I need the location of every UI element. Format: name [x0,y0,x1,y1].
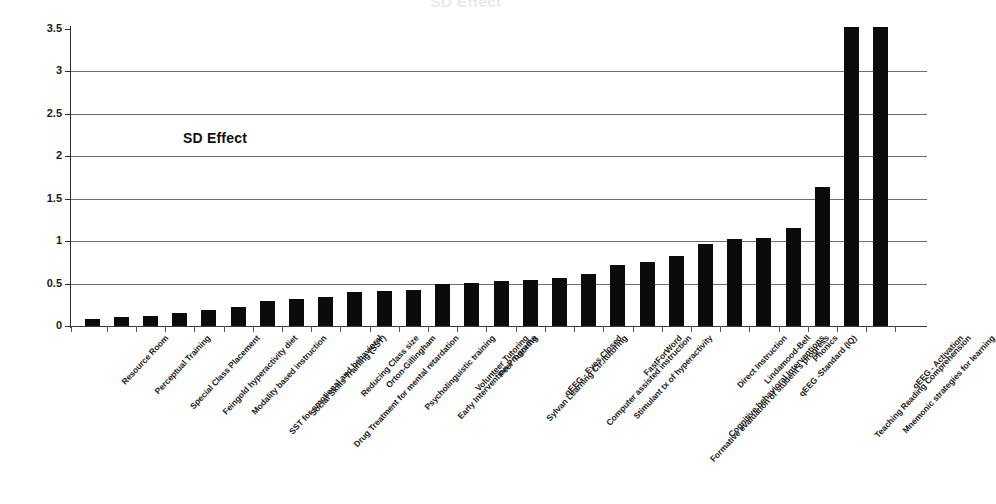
x-tick-mark [428,326,429,332]
bar [756,238,771,326]
bar [85,319,100,326]
bar [260,301,275,326]
x-tick-mark [136,326,137,332]
x-tick-mark [837,326,838,332]
chart-title: SD Effect [0,0,932,10]
y-tick-mark [65,199,71,200]
y-tick-label: 0 [4,319,62,331]
gridline [71,114,927,115]
x-tick-mark [779,326,780,332]
bar [406,290,421,326]
bar [289,299,304,326]
x-tick-mark [165,326,166,332]
plot-area [71,29,927,326]
x-tick-mark [399,326,400,332]
bar [552,278,567,326]
bar [114,317,129,326]
x-axis-ticks [71,326,927,333]
x-tick-mark [253,326,254,332]
x-tick-mark [340,326,341,332]
x-category-label: Teaching Reading Comprehension [873,333,974,440]
x-tick-mark [107,326,108,332]
y-tick-label: 1 [4,234,62,246]
y-tick-mark [65,241,71,242]
x-tick-mark [282,326,283,332]
x-tick-mark [691,326,692,332]
x-tick-mark [370,326,371,332]
bar [640,262,655,326]
gridline [71,156,927,157]
bar [143,316,158,326]
bar [435,284,450,326]
x-tick-mark [194,326,195,332]
x-tick-mark [545,326,546,332]
bar [347,292,362,326]
x-tick-mark [603,326,604,332]
bar [494,281,509,326]
y-tick-mark [65,326,71,327]
y-tick-label: 3 [4,64,62,76]
gridline [71,199,927,200]
bar [815,187,830,326]
x-tick-mark [633,326,634,332]
bar [464,283,479,326]
x-axis-category-labels: Resource RoomPerceptual TrainingSpecial … [0,333,932,504]
bar [377,291,392,326]
bar [231,307,246,326]
x-tick-mark [486,326,487,332]
x-tick-mark [720,326,721,332]
x-tick-mark [574,326,575,332]
bar [786,228,801,326]
y-tick-label: 3.5 [4,22,62,34]
y-axis-tick-labels: 3.532.521.510.50 [0,29,62,326]
bar [844,27,859,326]
x-tick-mark [808,326,809,332]
y-tick-mark [65,156,71,157]
x-tick-mark [662,326,663,332]
y-tick-label: 1.5 [4,192,62,204]
x-tick-mark [224,326,225,332]
bar [610,265,625,326]
x-tick-mark [749,326,750,332]
gridline [71,71,927,72]
y-tick-label: 2.5 [4,107,62,119]
x-tick-mark [311,326,312,332]
x-tick-mark [71,326,72,332]
y-tick-mark [65,29,71,30]
bar [873,27,888,326]
bar [201,310,216,326]
x-tick-mark [516,326,517,332]
y-tick-mark [65,71,71,72]
x-tick-mark [866,326,867,332]
y-tick-mark [65,284,71,285]
y-tick-label: 2 [4,149,62,161]
y-tick-mark [65,114,71,115]
bar [172,313,187,326]
bar [581,274,596,326]
x-tick-mark [457,326,458,332]
bar [523,280,538,326]
sd-effect-annotation: SD Effect [183,130,247,146]
bar [727,239,742,326]
y-tick-label: 0.5 [4,277,62,289]
bar [318,297,333,326]
x-category-label: qEEG - Eyes Closed [563,333,625,398]
x-tick-mark [895,326,896,332]
bar [698,244,713,326]
bar [669,256,684,326]
